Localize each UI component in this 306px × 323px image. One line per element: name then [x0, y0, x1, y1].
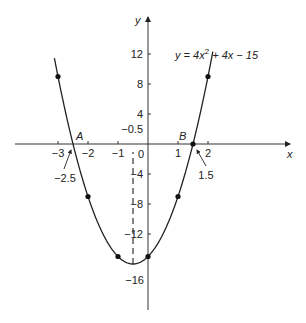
x-tick-label: 2	[205, 147, 211, 159]
x-tick-label: −2	[82, 147, 95, 159]
data-point	[115, 254, 120, 259]
y-tick-label: 12	[131, 48, 143, 60]
data-point	[190, 141, 195, 146]
parabola-chart: xy−3−2−1121284−4−8−120 −0.5−16AB−2.51.5y…	[0, 0, 306, 323]
x-tick-label: 1	[175, 147, 181, 159]
y-axis-label: y	[134, 14, 142, 26]
data-point	[55, 74, 60, 79]
equation-label: y = 4x2 + 4x − 15	[174, 47, 259, 61]
point-a-label: A	[75, 130, 83, 142]
y-tick-label: −8	[130, 198, 143, 210]
x-tick-label: −3	[52, 147, 65, 159]
y-tick-label: −12	[124, 228, 143, 240]
annotations: −0.5−16AB−2.51.5y = 4x2 + 4x − 15	[54, 47, 259, 286]
origin-label: 0	[138, 148, 144, 160]
x-tick-label: −1	[112, 147, 125, 159]
min-x-label: −0.5	[121, 123, 143, 135]
point-b-value: 1.5	[198, 169, 213, 181]
data-point	[85, 194, 90, 199]
y-tick-label: −4	[130, 168, 143, 180]
data-point	[205, 74, 210, 79]
point-b-label: B	[179, 130, 186, 142]
data-point	[175, 194, 180, 199]
min-y-label: −16	[125, 274, 144, 286]
y-tick-label: 8	[137, 78, 143, 90]
x-axis-label: x	[286, 148, 293, 160]
point-a-value: −2.5	[54, 172, 76, 184]
data-point	[145, 254, 150, 259]
y-tick-label: 4	[137, 108, 143, 120]
